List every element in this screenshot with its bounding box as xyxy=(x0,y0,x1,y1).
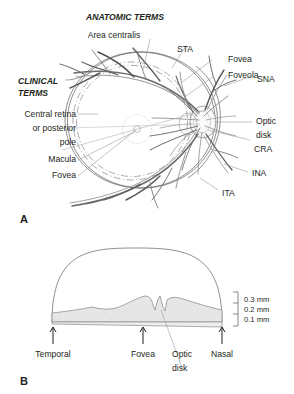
label-fovea-anatomic: Fovea xyxy=(228,54,252,64)
label-optic-disk-line1: Optic xyxy=(256,116,277,126)
scale-tick-02: 0.2 mm xyxy=(244,305,269,314)
panel-b-label: B xyxy=(20,375,28,387)
anatomic-terms-title: ANATOMIC TERMS xyxy=(85,12,164,22)
label-central-retina-line1: Central retina xyxy=(24,109,76,119)
label-ita: ITA xyxy=(222,188,235,198)
label-nasal: Nasal xyxy=(211,349,233,359)
label-macula: Macula xyxy=(48,154,76,164)
label-sta: STA xyxy=(177,44,193,54)
label-optic-disk-b-line1: Optic xyxy=(172,349,193,359)
label-central-retina-line3: pole xyxy=(60,137,76,147)
label-optic-disk-b-line2: disk xyxy=(172,363,188,373)
label-sna: SNA xyxy=(257,74,275,84)
label-central-retina-line2: or posterior xyxy=(33,123,77,133)
label-fovea-b: Fovea xyxy=(131,349,155,359)
retina-anatomy-figure: ANATOMIC TERMS CLINICAL TERMS Area centr… xyxy=(0,0,294,394)
label-area-centralis: Area centralis xyxy=(88,30,141,40)
label-cra: CRA xyxy=(254,144,272,154)
clinical-terms-title-line2: TERMS xyxy=(18,88,48,98)
label-ina: INA xyxy=(252,168,267,178)
label-temporal: Temporal xyxy=(35,349,70,359)
label-fovea-clinical: Fovea xyxy=(52,170,76,180)
panel-a-label: A xyxy=(20,213,28,225)
scale-tick-01: 0.1 mm xyxy=(244,315,269,324)
scale-tick-03: 0.3 mm xyxy=(244,295,269,304)
label-foveola: Foveola xyxy=(228,70,259,80)
clinical-terms-title-line1: CLINICAL xyxy=(18,76,58,86)
label-optic-disk-line2: disk xyxy=(256,130,272,140)
